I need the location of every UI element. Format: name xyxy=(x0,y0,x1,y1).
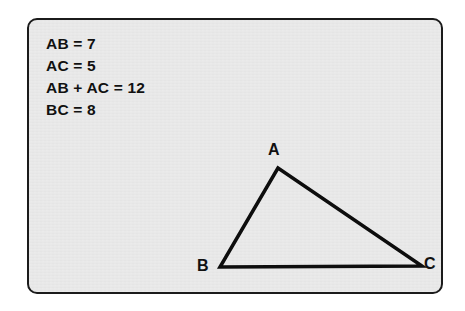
triangle-diagram xyxy=(29,20,441,292)
figure-panel: AB = 7 AC = 5 AB + AC = 12 BC = 8 A B C xyxy=(27,18,443,294)
figure-root: AB = 7 AC = 5 AB + AC = 12 BC = 8 A B C xyxy=(0,0,465,311)
vertex-label-a: A xyxy=(268,142,280,158)
vertex-label-b: B xyxy=(197,258,209,274)
vertex-label-c: C xyxy=(424,256,436,272)
triangle-outline xyxy=(220,168,422,267)
